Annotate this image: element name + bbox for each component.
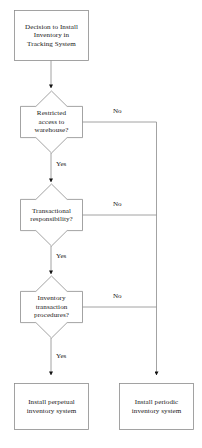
- edge-decision1-no: [83, 122, 157, 375]
- node-decision1-shape: [21, 91, 83, 153]
- node-outcome-periodic-shape: [120, 384, 194, 430]
- flowchart-graphics: [0, 0, 202, 448]
- node-decision3-shape: [21, 276, 83, 338]
- node-outcome-perpetual-shape: [15, 384, 89, 430]
- node-decision2-shape: [21, 184, 83, 246]
- flowchart-canvas: Decision to Install Inventory in Trackin…: [0, 0, 202, 448]
- node-start-shape: [15, 11, 89, 61]
